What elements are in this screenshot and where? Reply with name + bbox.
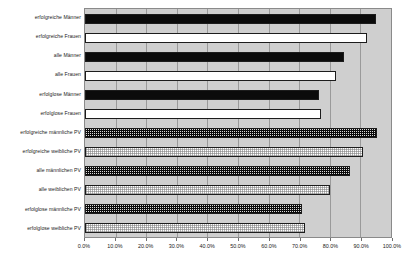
axis-tick-label: 0.0%: [78, 243, 90, 249]
axis-tick: [392, 238, 393, 241]
bar-slot: [85, 180, 391, 199]
bar[interactable]: [85, 204, 302, 214]
bar-slot: [85, 199, 391, 218]
bar[interactable]: [85, 14, 376, 24]
axis-tick: [146, 238, 147, 241]
axis-tick: [176, 238, 177, 241]
bar[interactable]: [85, 166, 350, 176]
bar-slot: [85, 66, 391, 85]
axis-tick-label: 40.0%: [200, 243, 215, 249]
category-label: alle Männer: [0, 46, 84, 65]
category-label: alle Frauen: [0, 66, 84, 85]
bar[interactable]: [85, 33, 367, 43]
axis-tick: [300, 238, 301, 241]
bar-slot: [85, 28, 391, 47]
category-label: alle weiblichen PV: [0, 181, 84, 200]
category-label: erfolgreiche Männer: [0, 8, 84, 27]
bar-slot: [85, 9, 391, 28]
axis-tick-label: 100.0%: [383, 243, 401, 249]
axis-tick-label: 30.0%: [169, 243, 184, 249]
category-label: erfolgreiche weibliche PV: [0, 142, 84, 161]
axis-tick: [115, 238, 116, 241]
bar-slot: [85, 142, 391, 161]
category-label: erfolgreiche Frauen: [0, 27, 84, 46]
category-label: alle männlichen PV: [0, 161, 84, 180]
bar[interactable]: [85, 128, 377, 138]
axis-tick-label: 70.0%: [292, 243, 307, 249]
axis-tick-label: 10.0%: [107, 243, 122, 249]
axis-tick: [361, 238, 362, 241]
bar-slot: [85, 161, 391, 180]
bar[interactable]: [85, 185, 330, 195]
bar[interactable]: [85, 147, 363, 157]
category-label: erfolglose männliche PV: [0, 200, 84, 219]
bar[interactable]: [85, 52, 344, 62]
bar[interactable]: [85, 71, 336, 81]
axis-tick-label: 80.0%: [323, 243, 338, 249]
bar-slot: [85, 47, 391, 66]
bar[interactable]: [85, 223, 305, 233]
bar-chart: erfolgreiche Männer erfolgreiche Frauen …: [0, 0, 416, 269]
axis-tick: [207, 238, 208, 241]
category-label: erfolgreiche männliche PV: [0, 123, 84, 142]
gridline: [391, 9, 392, 237]
plot-area: [84, 8, 392, 238]
value-axis: 0.0%10.0%20.0%30.0%40.0%50.0%60.0%70.0%8…: [84, 238, 392, 258]
bar-series: [85, 9, 391, 237]
axis-tick-label: 60.0%: [261, 243, 276, 249]
axis-tick-label: 90.0%: [354, 243, 369, 249]
bar[interactable]: [85, 90, 319, 100]
bar-slot: [85, 218, 391, 237]
bar-slot: [85, 85, 391, 104]
bar-slot: [85, 104, 391, 123]
axis-tick-label: 50.0%: [230, 243, 245, 249]
axis-tick: [330, 238, 331, 241]
bar-slot: [85, 123, 391, 142]
category-label: erfolglose Männer: [0, 85, 84, 104]
bar[interactable]: [85, 109, 321, 119]
axis-tick: [238, 238, 239, 241]
category-label: erfolglose weibliche PV: [0, 219, 84, 238]
axis-tick-label: 20.0%: [138, 243, 153, 249]
axis-tick: [84, 238, 85, 241]
category-axis: erfolgreiche Männer erfolgreiche Frauen …: [0, 8, 84, 238]
axis-tick: [269, 238, 270, 241]
category-label: erfolglose Frauen: [0, 104, 84, 123]
